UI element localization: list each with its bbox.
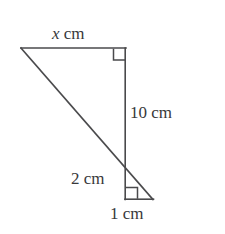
label-lower-vertical-side-2-cm: 2 cm [71,170,105,187]
label-x-cm: x cm [52,25,85,42]
label-vertical-side-10-cm: 10 cm [130,104,172,121]
geometry-figure: x cm 10 cm 2 cm 1 cm [0,0,225,234]
right-angle-marker-top-icon [114,49,126,60]
figure-drawing [0,0,225,234]
label-x-variable: x [52,24,60,43]
right-angle-marker-bottom-icon [126,188,138,199]
label-x-unit: cm [64,24,85,43]
label-base-side-1-cm: 1 cm [110,205,144,222]
